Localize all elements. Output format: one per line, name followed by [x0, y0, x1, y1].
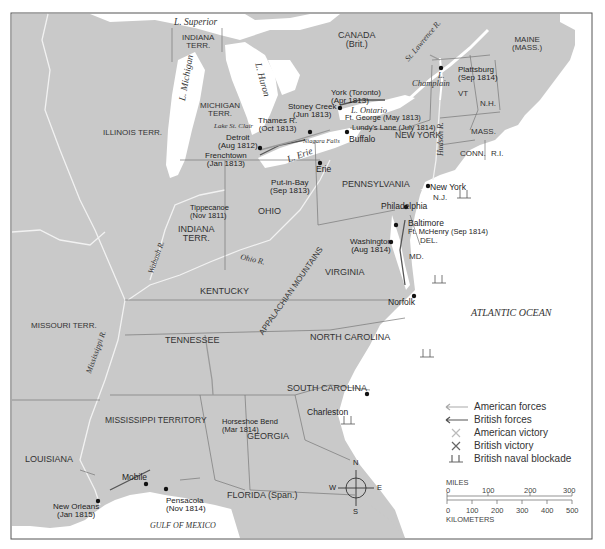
label-lake-st-clair: Lake St. Clair [214, 123, 253, 130]
label-plattsburg: Plattsburg(Sep 1814) [458, 66, 498, 83]
label-frenchtown: Frenchtown(Jan 1813) [205, 152, 247, 169]
label-lundys-lane: Lundy's Lane (July 1814) [352, 124, 436, 132]
label-ft-mchenry: Ft. McHenry (Sep 1814) [408, 228, 488, 236]
label-indiana-terr-north: INDIANATERR. [182, 34, 214, 51]
label-ohio: OHIO [258, 207, 281, 216]
scale-km-tick-400: 400 [541, 506, 554, 515]
scale-mile-tick-100: 100 [482, 486, 495, 495]
label-indiana-terr: INDIANATERR. [178, 225, 215, 244]
label-kentucky: KENTUCKY [200, 287, 249, 296]
label-ri: R.I. [491, 150, 503, 158]
label-conn: CONN. [460, 150, 486, 158]
label-ft-george: Ft. George (May 1813) [345, 114, 421, 122]
label-thames-river: Thames R.(Oct 1813) [258, 117, 297, 134]
label-north-carolina: NORTH CAROLINA [310, 333, 390, 342]
label-detroit: Detroit(Aug 1812) [218, 134, 258, 151]
compass-w: W [329, 484, 336, 492]
label-del: DEL. [420, 237, 438, 245]
compass-e: E [377, 484, 382, 492]
label-virginia: VIRGINIA [325, 268, 365, 277]
label-erie: Erie [316, 165, 331, 174]
scale-km-tick-200: 200 [491, 506, 504, 515]
label-charleston: Charleston [307, 408, 348, 417]
label-tennessee: TENNESSEE [165, 336, 220, 345]
label-new-york-city: New York [430, 183, 466, 192]
label-buffalo: Buffalo [349, 135, 375, 144]
scale-km-tick-300: 300 [516, 506, 529, 515]
label-mass: MASS. [471, 128, 496, 136]
label-south-carolina: SOUTH CAROLINA [287, 384, 367, 393]
compass-s: S [353, 508, 358, 516]
label-florida: FLORIDA (Span.) [227, 491, 298, 500]
label-michigan-terr: MICHIGANTERR. [200, 102, 240, 119]
scale-km-tick-500: 500 [566, 506, 579, 515]
label-vt: VT [458, 90, 468, 98]
legend-british-naval-blockade: British naval blockade [474, 453, 571, 464]
legend-british-forces: British forces [474, 414, 532, 425]
label-niagara-falls: Niagara Falls [303, 138, 340, 145]
label-illinois-terr: ILLINOIS TERR. [103, 129, 162, 137]
label-maine: MAINE(MASS.) [512, 36, 542, 53]
label-nj: N.J. [433, 194, 447, 202]
scale-km-tick-100: 100 [466, 506, 479, 515]
compass-n: N [353, 459, 358, 467]
legend-british-victory: British victory [474, 440, 533, 451]
label-washington: Washington(Aug 1814) [350, 238, 392, 255]
label-new-york: NEW YORK [395, 131, 441, 140]
label-mississippi-territory: MISSISSIPPI TERRITORY [105, 416, 207, 425]
label-mobile: Mobile [122, 473, 147, 482]
label-put-in-bay: Put-in-Bay(Sep 1813) [270, 179, 310, 196]
label-pensacola: Pensacola(Nov 1814) [166, 497, 206, 514]
label-pennsylvania: PENNSYLVANIA [342, 180, 410, 189]
label-horseshoe-bend: Horseshoe Bend(Mar 1814) [222, 418, 278, 434]
label-nh: N.H. [480, 100, 496, 108]
legend-american-victory: American victory [474, 427, 548, 438]
label-norfolk: Norfolk [388, 298, 415, 307]
label-lake-superior: L. Superior [174, 18, 217, 28]
label-lake-champlain-2: Champlain [412, 79, 450, 88]
label-new-orleans: New Orleans(Jan 1815) [53, 503, 99, 520]
label-canada: CANADA(Brit.) [338, 31, 376, 50]
scale-mile-tick-200: 200 [524, 486, 537, 495]
label-gulf-of-mexico: GULF OF MEXICO [150, 522, 216, 530]
label-louisiana: LOUISIANA [25, 455, 73, 464]
legend-american-forces: American forces [474, 401, 546, 412]
scale-km-label: KILOMETERS [446, 515, 494, 524]
label-missouri-terr: MISSOURI TERR. [31, 322, 97, 330]
label-tippecanoe: Tippecanoe(Nov 1811) [190, 204, 229, 220]
label-md: MD. [409, 253, 424, 261]
scale-km-tick-0: 0 [446, 506, 450, 515]
label-philadelphia: Philadelphia [381, 202, 427, 211]
scale-mile-tick-300: 300 [563, 486, 576, 495]
scale-mile-tick-0: 0 [446, 486, 450, 495]
label-york: York (Toronto)(Apr 1813) [331, 89, 381, 106]
label-atlantic-ocean: ATLANTIC OCEAN [471, 308, 551, 319]
